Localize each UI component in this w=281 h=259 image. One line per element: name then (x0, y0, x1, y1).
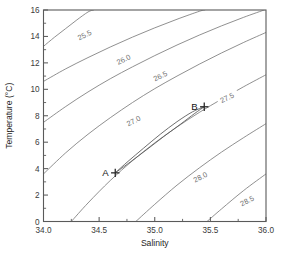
x-tick-label-35.5: 35.5 (202, 226, 218, 235)
y-axis-title: Temperature (°C) (4, 83, 14, 149)
point-label-B: B (191, 101, 197, 112)
contour-line-26.0 (44, 10, 205, 81)
x-axis-title: Salinity (141, 238, 169, 248)
mixing-loop-lower-path (115, 107, 204, 173)
y-tick-label-6: 6 (35, 138, 40, 147)
point-label-A: A (102, 167, 109, 178)
x-tick-label-36.0: 36.0 (258, 226, 274, 235)
contour-line-26.5 (44, 9, 267, 122)
x-tick-label-35.0: 35.0 (147, 226, 163, 235)
x-tick-label-34.0: 34.0 (36, 226, 52, 235)
y-tick-label-8: 8 (35, 112, 40, 121)
y-tick-label-10: 10 (30, 85, 40, 94)
y-tick-label-4: 4 (35, 165, 40, 174)
ts-diagram-chart: 25.526.026.527.027.528.028.534.034.535.0… (0, 0, 281, 259)
x-tick-label-34.5: 34.5 (91, 226, 107, 235)
contour-line-25.5 (44, 10, 94, 46)
contour-line-27.0 (44, 32, 267, 173)
y-tick-label-0: 0 (35, 218, 40, 227)
y-tick-label-16: 16 (30, 6, 40, 15)
contour-group (44, 9, 267, 221)
y-tick-label-14: 14 (30, 32, 40, 41)
y-tick-label-2: 2 (35, 191, 40, 200)
y-tick-label-12: 12 (30, 59, 40, 68)
data-point-marker-B[interactable] (200, 103, 208, 111)
plot-canvas: 25.526.026.527.027.528.028.534.034.535.0… (0, 0, 281, 259)
